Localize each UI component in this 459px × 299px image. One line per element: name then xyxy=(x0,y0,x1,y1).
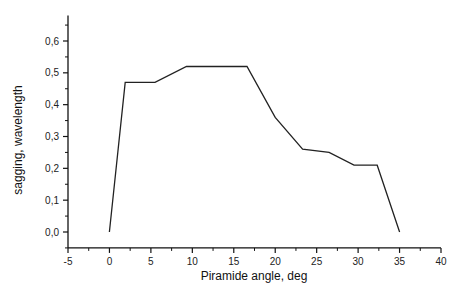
x-tick-label: 15 xyxy=(228,256,240,267)
line-chart: 0,00,10,20,30,40,50,6 -50510152025303540… xyxy=(0,0,459,299)
y-tick-label: 0,2 xyxy=(45,163,59,174)
y-tick-label: 0,6 xyxy=(45,36,59,47)
x-tick-label: 25 xyxy=(311,256,323,267)
data-line xyxy=(109,67,399,233)
y-tick-label: 0,0 xyxy=(45,227,59,238)
x-tick-label: 30 xyxy=(353,256,365,267)
x-tick-label: -5 xyxy=(64,256,73,267)
x-tick-label: 20 xyxy=(270,256,282,267)
x-axis-title: Piramide angle, deg xyxy=(201,269,308,283)
y-axis-title: sagging, wavelength xyxy=(11,85,25,194)
y-tick-label: 0,3 xyxy=(45,131,59,142)
y-axis: 0,00,10,20,30,40,50,6 xyxy=(45,16,68,248)
x-tick-label: 5 xyxy=(148,256,154,267)
y-tick-label: 0,4 xyxy=(45,99,59,110)
x-tick-label: 0 xyxy=(107,256,113,267)
y-tick-label: 0,1 xyxy=(45,195,59,206)
x-tick-label: 40 xyxy=(435,256,447,267)
y-tick-label: 0,5 xyxy=(45,67,59,78)
x-tick-label: 35 xyxy=(394,256,406,267)
x-axis: -50510152025303540 xyxy=(64,248,447,267)
x-tick-label: 10 xyxy=(187,256,199,267)
